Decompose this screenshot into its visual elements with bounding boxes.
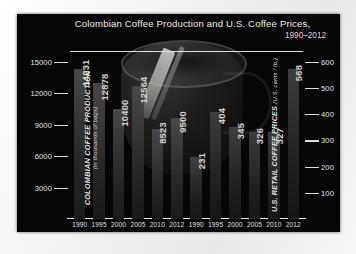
left-tick-mark: [54, 93, 68, 94]
right-tick-label: 300: [321, 136, 334, 145]
right-tick-label: 500: [321, 83, 334, 92]
x-tick-label: 1995: [208, 221, 223, 228]
chart-panel: Colombian Coffee Production and U.S. Cof…: [17, 14, 340, 232]
left-axis-title: COLOMBIAN COFFEE PRODUCTION (in thousand…: [83, 71, 98, 206]
bar-value-label: 12564: [138, 77, 149, 104]
chart-title: Colombian Coffee Production and U.S. Cof…: [17, 18, 328, 30]
bar-value-label: 345: [235, 123, 246, 139]
x-tick-label: 1995: [92, 221, 107, 228]
right-tick-label: 400: [321, 110, 334, 119]
bar: 345: [229, 127, 241, 219]
x-tick-label: 2005: [247, 221, 262, 228]
left-tick-label: 3000: [35, 183, 52, 192]
screenshot-root: Colombian Coffee Production and U.S. Cof…: [0, 0, 356, 254]
right-tick-mark: [305, 62, 319, 63]
left-tick-label: 9000: [35, 120, 52, 129]
right-tick-label: 200: [321, 162, 334, 171]
chart-subtitle: 1990–2012: [17, 30, 328, 41]
x-tick-label: 2012: [169, 221, 184, 228]
bar-value-label: 568: [293, 65, 304, 81]
x-tick-label: 2012: [286, 221, 301, 228]
left-tick-mark: [54, 188, 68, 189]
x-axis-labels: 1990199520002005201020121990199520002005…: [70, 221, 303, 232]
right-tick-label: 600: [321, 57, 334, 66]
bar-value-label: 10400: [119, 99, 130, 126]
left-tick-mark: [54, 156, 68, 157]
x-tick-label: 2010: [266, 221, 281, 228]
left-tick-mark: [54, 125, 68, 126]
right-tick-label: 100: [321, 188, 334, 197]
x-tick-label: 1990: [72, 221, 87, 228]
right-tick-mark: [305, 193, 319, 194]
bar-value-label: 8523: [157, 122, 168, 144]
bar: 12564: [132, 86, 144, 219]
bar-value-label: 231: [196, 153, 207, 169]
left-tick-label: 6000: [35, 152, 52, 161]
bar: 8523: [152, 129, 164, 219]
bar-group: 1423112878104001256485239500231404345326…: [70, 51, 303, 219]
bar: 404: [210, 112, 222, 219]
right-tick-mark: [305, 140, 319, 141]
x-tick-label: 2000: [111, 221, 126, 228]
left-tick-mark: [54, 62, 68, 63]
right-tick-mark: [305, 167, 319, 168]
bar: 231: [190, 157, 202, 219]
right-axis-title-main: U.S. RETAIL COFFEE PRICES: [269, 106, 278, 212]
right-axis-title-sub: (U.S. cents / lb.): [271, 58, 277, 104]
bar: 326: [249, 132, 261, 219]
right-tick-mark: [305, 114, 319, 115]
left-tick-label: 12000: [30, 89, 52, 98]
x-tick-label: 2000: [227, 221, 242, 228]
bar-value-label: 9500: [177, 111, 188, 133]
chart-title-block: Colombian Coffee Production and U.S. Cof…: [17, 18, 328, 41]
right-axis-title: U.S. RETAIL COFFEE PRICES (U.S. cents / …: [269, 58, 278, 212]
left-tick-label: 15000: [30, 57, 52, 66]
bar: 568: [288, 69, 300, 219]
bar-value-label: 12878: [99, 73, 110, 100]
left-axis-title-sub: (in thousands of bags): [92, 71, 98, 206]
bar: 9500: [171, 118, 183, 219]
bar-value-label: 404: [216, 108, 227, 124]
x-tick-label: 2010: [150, 221, 165, 228]
bar-value-label: 326: [254, 128, 265, 144]
right-tick-mark: [305, 88, 319, 89]
x-tick-label: 2005: [130, 221, 145, 228]
left-axis-title-main: COLOMBIAN COFFEE PRODUCTION: [83, 71, 92, 206]
x-tick-label: 1990: [189, 221, 204, 228]
plot-area: 1500012000900060003000 60050040030020010…: [70, 51, 303, 219]
bar: 10400: [113, 109, 125, 219]
